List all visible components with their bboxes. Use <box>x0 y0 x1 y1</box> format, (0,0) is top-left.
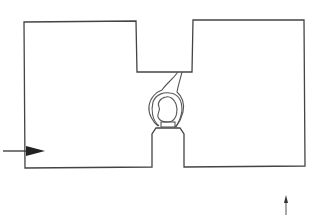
up-arrow <box>284 195 288 215</box>
chamber-outline <box>24 20 305 168</box>
loop-structure <box>149 72 184 127</box>
diagram-canvas <box>0 0 322 219</box>
right-arrow <box>3 146 45 156</box>
